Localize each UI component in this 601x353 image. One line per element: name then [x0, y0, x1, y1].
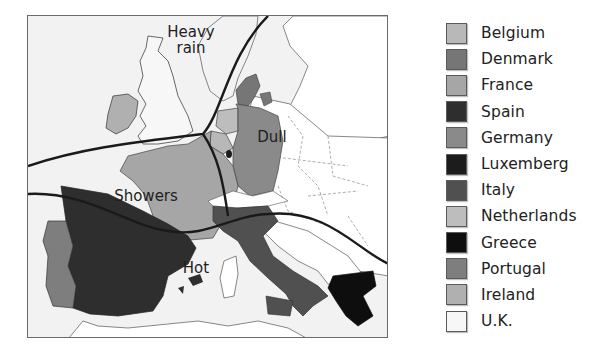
legend-label: Luxemberg	[481, 155, 569, 173]
balearic	[178, 274, 203, 294]
legend-item-uk: U.K.	[446, 308, 577, 334]
legend-label: Netherlands	[481, 207, 577, 225]
legend-item-netherlands: Netherlands	[446, 203, 577, 229]
swatch-denmark	[446, 49, 467, 70]
germany	[233, 104, 283, 196]
legend-item-portugal: Portugal	[446, 256, 577, 282]
legend-label: France	[481, 76, 533, 94]
luxembourg	[226, 150, 232, 158]
legend-item-denmark: Denmark	[446, 46, 577, 72]
legend-label: Ireland	[481, 286, 535, 304]
swatch-belgium	[446, 23, 467, 44]
zone-label-heavy-rain: Heavy rain	[156, 24, 226, 56]
netherlands	[216, 108, 238, 134]
swatch-greece	[446, 232, 467, 253]
legend-item-belgium: Belgium	[446, 20, 577, 46]
legend-item-luxemberg: Luxemberg	[446, 151, 577, 177]
legend-label: Germany	[481, 129, 553, 147]
greece	[328, 271, 376, 326]
zone-label-hot: Hot	[176, 260, 216, 276]
ireland	[106, 94, 138, 134]
legend-item-france: France	[446, 72, 577, 98]
zone-label-dull: Dull	[250, 129, 294, 145]
legend-item-ireland: Ireland	[446, 282, 577, 308]
swatch-netherlands	[446, 206, 467, 227]
swatch-ireland	[446, 284, 467, 305]
swatch-luxemberg	[446, 154, 467, 175]
legend-item-italy: Italy	[446, 177, 577, 203]
legend-label: Italy	[481, 181, 515, 199]
legend-label: Belgium	[481, 24, 545, 42]
legend-label: Spain	[481, 103, 525, 121]
legend-label: Greece	[481, 234, 537, 252]
swatch-portugal	[446, 258, 467, 279]
swatch-germany	[446, 127, 467, 148]
legend-item-germany: Germany	[446, 125, 577, 151]
europe-weather-map: Heavy rain Dull Showers Hot	[27, 15, 388, 338]
zone-label-showers: Showers	[106, 188, 186, 204]
swatch-france	[446, 75, 467, 96]
legend-item-greece: Greece	[446, 230, 577, 256]
legend: Belgium Denmark France Spain Germany Lux…	[446, 20, 577, 334]
legend-item-spain: Spain	[446, 99, 577, 125]
swatch-spain	[446, 101, 467, 122]
legend-label: U.K.	[481, 312, 513, 330]
swatch-italy	[446, 180, 467, 201]
north-africa	[68, 321, 308, 338]
sardinia	[220, 256, 238, 298]
legend-label: Denmark	[481, 50, 553, 68]
swatch-uk	[446, 311, 467, 332]
legend-label: Portugal	[481, 260, 546, 278]
heavy-rain-line1: Heavy	[156, 24, 226, 40]
heavy-rain-line2: rain	[156, 40, 226, 56]
map-graphic	[28, 16, 388, 338]
